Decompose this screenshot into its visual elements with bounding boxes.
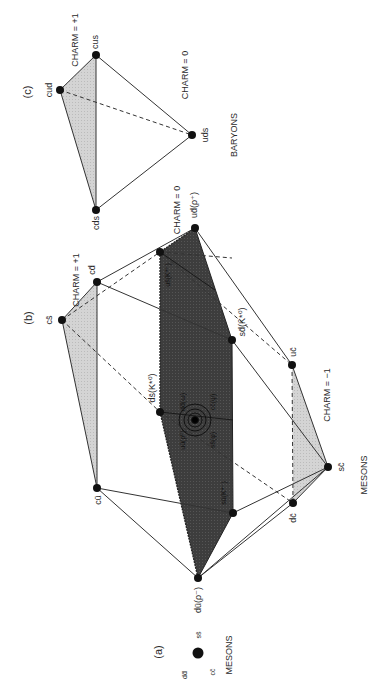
panel-c-baryons: (c) cus cud cds uds CHARM = +1 CHARM = 0… [21, 13, 239, 230]
node-singlets [193, 648, 204, 659]
node-ds [156, 408, 164, 416]
label-cs: cs̄ [44, 315, 54, 325]
node-ud [191, 224, 199, 232]
charm-plus-one-face [62, 282, 97, 488]
panel-a-label: (a) [152, 645, 164, 658]
panel-b-mesons: (b) cs̄ cd̄ cū ud̄(ρ⁺) dū(ρ⁻) us̄(K*⁺) d… [22, 186, 369, 613]
label-uc: uc̄ [288, 347, 298, 357]
center-label-uu: uū(ρ⁰) [179, 430, 187, 449]
node-cs [58, 316, 66, 324]
mesons-title-a: MESONS [224, 635, 234, 674]
node-cu [93, 484, 101, 492]
label-cu: cū [93, 495, 103, 505]
mesons-title-b: MESONS [359, 455, 369, 494]
label-sc: sc̄ [336, 462, 346, 472]
node-sd [228, 336, 236, 344]
charm-minus-one-label: CHARM = −1 [322, 368, 332, 422]
label-cus: cus [90, 35, 100, 50]
label-cc: cc̄ [209, 668, 216, 676]
node-uc [288, 361, 296, 369]
baryons-title: BARYONS [229, 113, 239, 157]
node-cd [93, 278, 101, 286]
node-dc [289, 499, 297, 507]
charm-plus-one-label: CHARM = +1 [70, 13, 80, 67]
node-cus [92, 51, 100, 59]
label-sd: sd̄(K̄*⁰) [237, 307, 247, 336]
meson-baryon-diagram: (c) cus cud cds uds CHARM = +1 CHARM = 0… [0, 0, 384, 697]
center-label-cc: cc̄(ψ) [209, 394, 217, 411]
charm-plus-one-label: CHARM = +1 [71, 253, 81, 307]
label-du: dū(ρ⁻) [193, 587, 203, 613]
label-dd: dd̄ [181, 671, 188, 679]
node-cds [92, 206, 100, 214]
label-su: sū(K*⁻) [220, 481, 228, 504]
charm-plus-one-face [60, 55, 96, 210]
label-ss: ss̄ [195, 631, 202, 639]
label-dc: dc̄ [288, 513, 298, 523]
label-uds: uds [200, 127, 210, 142]
panel-a-mesons: (a) dd̄ ss̄ cc̄ MESONS [152, 631, 234, 679]
node-sc [324, 463, 332, 471]
label-ud: ud̄(ρ⁺) [189, 192, 199, 218]
node-uds [188, 131, 196, 139]
node-su [229, 509, 237, 517]
charm-zero-label: CHARM = 0 [180, 51, 190, 99]
label-cd: cd̄ [87, 265, 97, 275]
node-cud [56, 86, 64, 94]
label-ds: ds̄(K*⁰) [147, 373, 157, 402]
panel-c-label: (c) [21, 86, 33, 99]
label-us: us̄(K*⁺) [164, 263, 172, 286]
charm-zero-label: CHARM = 0 [172, 186, 182, 234]
center-label-dd: dd̄(ω) [179, 393, 187, 411]
label-cds: cds [91, 216, 101, 231]
center-label-ss: ss̄(φ) [209, 432, 217, 448]
node-du [194, 574, 202, 582]
label-cud: cud [44, 83, 54, 98]
panel-b-label: (b) [22, 311, 34, 324]
node-us [156, 248, 164, 256]
